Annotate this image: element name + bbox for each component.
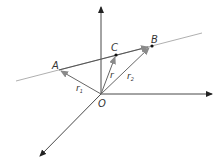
point-C: [114, 53, 117, 56]
label-A: A: [51, 60, 59, 71]
vector-AB: [59, 47, 148, 70]
label-r2: r2: [127, 71, 134, 82]
label-C: C: [111, 42, 118, 53]
label-r1: r1: [76, 83, 83, 94]
depth-axis: [40, 94, 101, 156]
vector-r2: [101, 48, 149, 94]
label-O: O: [98, 98, 106, 109]
vector-line-diagram: A C B O r1 r r2: [0, 0, 223, 168]
label-B: B: [151, 34, 158, 45]
label-r: r: [110, 70, 115, 80]
